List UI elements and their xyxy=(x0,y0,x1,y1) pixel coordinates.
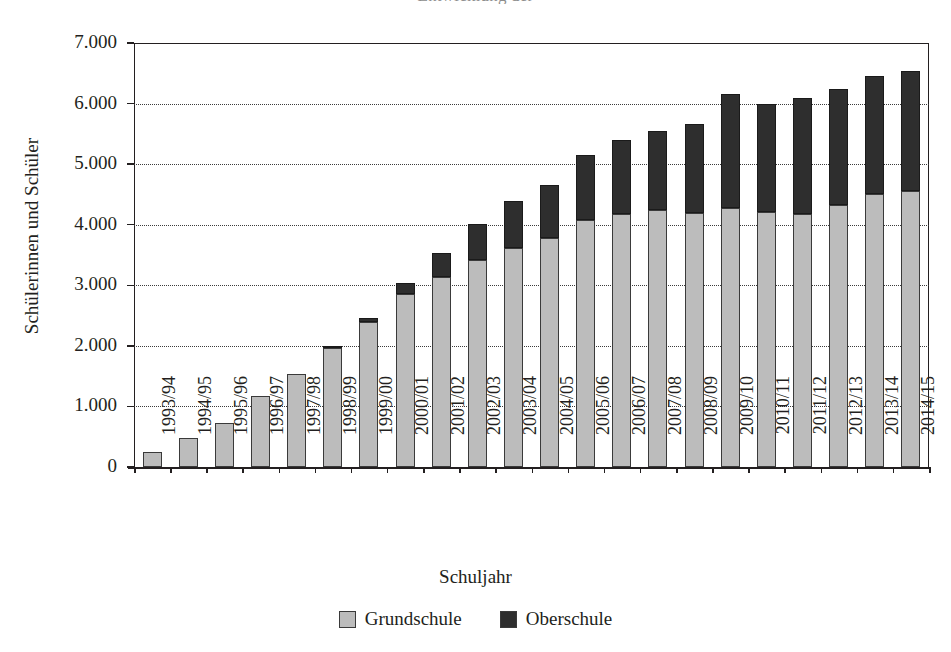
bar-segment-oberschule[interactable] xyxy=(865,76,884,194)
legend-item-oberschule[interactable]: Oberschule xyxy=(500,608,613,630)
bar-segment-oberschule[interactable] xyxy=(359,318,378,322)
y-axis-title: Schülerinnen und Schüler xyxy=(21,36,43,436)
bar-segment-oberschule[interactable] xyxy=(612,140,631,214)
bar-segment-oberschule[interactable] xyxy=(468,224,487,260)
y-tick-mark xyxy=(127,103,134,105)
bar-segment-oberschule[interactable] xyxy=(685,124,704,213)
y-tick-mark xyxy=(127,406,134,408)
x-tick-label: 2013/14 xyxy=(882,376,903,486)
x-tick-label: 1998/99 xyxy=(340,376,361,486)
bar-segment-oberschule[interactable] xyxy=(504,201,523,248)
x-tick-label: 1997/98 xyxy=(304,376,325,486)
chart-title: Entwicklung der xyxy=(0,0,951,4)
x-tick-label: 2010/11 xyxy=(773,376,794,486)
x-tick-label: 1994/95 xyxy=(195,376,216,486)
y-tick-mark xyxy=(127,345,134,347)
x-tick-label: 2014/15 xyxy=(918,376,939,486)
y-tick-label: 0 xyxy=(108,455,118,477)
bar-segment-oberschule[interactable] xyxy=(576,155,595,220)
y-tick-mark xyxy=(127,42,134,44)
bar-segment-oberschule[interactable] xyxy=(432,253,451,278)
x-tick-label: 1999/00 xyxy=(376,376,397,486)
legend-swatch-oberschule xyxy=(500,611,517,628)
y-tick-mark xyxy=(127,163,134,165)
bar-segment-oberschule[interactable] xyxy=(721,94,740,208)
x-tick-label: 1996/97 xyxy=(267,376,288,486)
x-tick-label: 2011/12 xyxy=(810,376,831,486)
x-tick-label: 2005/06 xyxy=(593,376,614,486)
x-tick-label: 1993/94 xyxy=(159,376,180,486)
y-tick-label: 2.000 xyxy=(74,334,117,356)
x-tick-label: 2001/02 xyxy=(448,376,469,486)
y-tick-mark xyxy=(127,466,134,468)
y-tick-label: 6.000 xyxy=(74,92,117,114)
chart-figure: Entwicklung der Schülerinnen und Schüler… xyxy=(0,0,951,652)
bar-segment-oberschule[interactable] xyxy=(829,89,848,205)
x-tick-label: 2004/05 xyxy=(557,376,578,486)
x-axis-title: Schuljahr xyxy=(0,566,951,588)
bar-segment-oberschule[interactable] xyxy=(901,71,920,191)
x-tick-label: 2009/10 xyxy=(737,376,758,486)
x-tick-label: 2003/04 xyxy=(520,376,541,486)
x-tick-label: 1995/96 xyxy=(231,376,252,486)
bar-segment-oberschule[interactable] xyxy=(648,131,667,210)
x-tick-label: 2006/07 xyxy=(629,376,650,486)
legend-swatch-grundschule xyxy=(339,611,356,628)
bar-segment-oberschule[interactable] xyxy=(396,283,415,293)
bar-segment-oberschule[interactable] xyxy=(757,104,776,212)
bar-segment-oberschule[interactable] xyxy=(323,346,342,348)
y-tick-mark xyxy=(127,224,134,226)
x-tick-label: 2012/13 xyxy=(846,376,867,486)
y-tick-label: 5.000 xyxy=(74,152,117,174)
y-tick-label: 7.000 xyxy=(74,31,117,53)
legend-label-oberschule: Oberschule xyxy=(526,608,613,630)
bar-segment-oberschule[interactable] xyxy=(793,98,812,214)
x-tick-label: 2000/01 xyxy=(412,376,433,486)
bar-segment-oberschule[interactable] xyxy=(540,185,559,238)
y-tick-label: 4.000 xyxy=(74,213,117,235)
x-tick-label: 2002/03 xyxy=(484,376,505,486)
y-tick-mark xyxy=(127,285,134,287)
x-tick-label: 2008/09 xyxy=(701,376,722,486)
x-tick-label: 2007/08 xyxy=(665,376,686,486)
y-tick-label: 3.000 xyxy=(74,273,117,295)
y-tick-label: 1.000 xyxy=(74,394,117,416)
y-axis-line xyxy=(134,43,135,467)
chart-legend: GrundschuleOberschule xyxy=(0,608,951,630)
x-tick-mark xyxy=(134,467,136,473)
legend-item-grundschule[interactable]: Grundschule xyxy=(339,608,462,630)
legend-label-grundschule: Grundschule xyxy=(365,608,462,630)
